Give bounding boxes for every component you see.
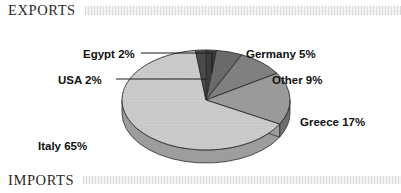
section-title-imports: IMPORTS [0, 173, 74, 188]
pie-label-other: Other 9% [272, 75, 323, 87]
pie-label-greece: Greece 17% [300, 117, 365, 129]
section-header-imports: IMPORTS [0, 170, 401, 190]
section-rule-exports [85, 6, 401, 15]
section-title-exports: EXPORTS [0, 3, 76, 18]
pie-slice-tops: Egypt 2%Germany 5%Other 9%Greece 17%Ital… [122, 50, 290, 150]
pie-label-egypt: Egypt 2% [83, 49, 135, 61]
pie-label-germany: Germany 5% [246, 49, 316, 61]
exports-pie-chart-figure: EXPORTS Egypt 2%Germany 5%Other 9%Greece… [0, 0, 401, 193]
pie-label-italy: Italy 65% [38, 141, 87, 153]
pie-label-usa: USA 2% [58, 75, 102, 87]
section-rule-imports [83, 176, 401, 184]
section-header-exports: EXPORTS [0, 0, 401, 20]
pie-chart-area: Egypt 2%Germany 5%Other 9%Greece 17%Ital… [0, 18, 401, 170]
